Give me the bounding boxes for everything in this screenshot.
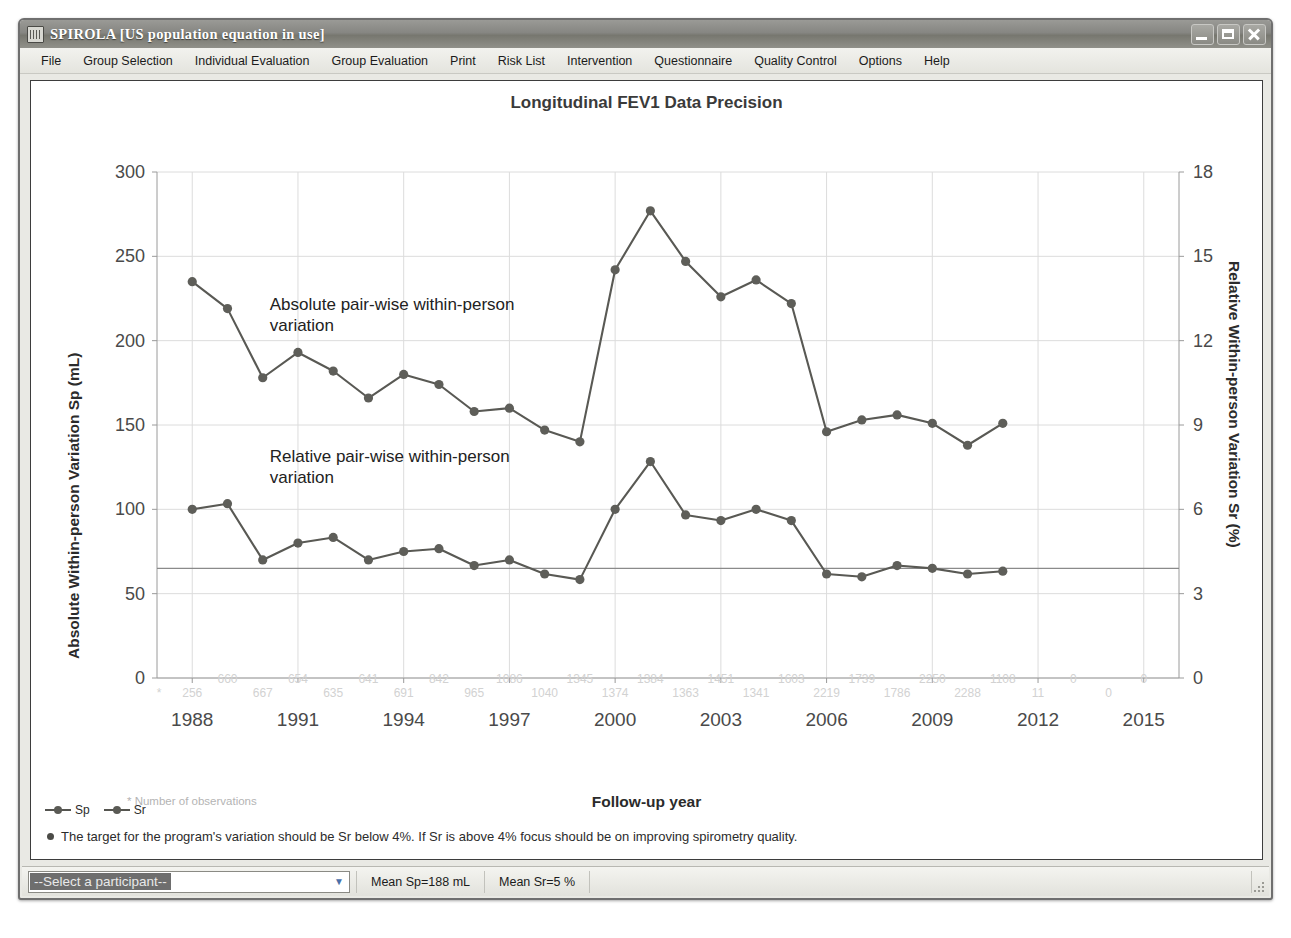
svg-text:9: 9	[1193, 415, 1203, 435]
target-note: The target for the program's variation s…	[47, 829, 797, 844]
menu-item-file[interactable]: File	[30, 51, 72, 71]
svg-text:667: 667	[253, 686, 273, 700]
legend-marker-sr-icon	[104, 805, 130, 815]
svg-text:0: 0	[1140, 672, 1147, 686]
menu-item-quality-control[interactable]: Quality Control	[743, 51, 848, 71]
app-icon	[27, 26, 44, 43]
svg-text:1994: 1994	[383, 709, 426, 730]
menu-item-group-selection[interactable]: Group Selection	[72, 51, 184, 71]
svg-text:1384: 1384	[637, 672, 664, 686]
y-axis-tick-labels-left: 050100150200250300	[115, 162, 145, 688]
target-note-text: The target for the program's variation s…	[61, 829, 797, 844]
legend-label-sr: Sr	[134, 803, 146, 817]
svg-text:641: 641	[358, 672, 378, 686]
title-bar[interactable]: SPIROLA [US population equation in use]	[20, 20, 1271, 48]
chart-annotations: Absolute pair-wise within-personvariatio…	[270, 295, 515, 487]
svg-text:2015: 2015	[1123, 709, 1165, 730]
svg-text:150: 150	[115, 415, 145, 435]
svg-text:1040: 1040	[531, 686, 558, 700]
svg-text:654: 654	[288, 672, 308, 686]
svg-text:0: 0	[1070, 672, 1077, 686]
svg-text:6: 6	[1193, 499, 1203, 519]
application-window: SPIROLA [US population equation in use] …	[18, 18, 1273, 900]
svg-text:18: 18	[1193, 162, 1213, 182]
svg-text:1108: 1108	[990, 672, 1016, 686]
axis-frame	[152, 172, 1184, 683]
svg-text:842: 842	[429, 672, 449, 686]
svg-text:2012: 2012	[1017, 709, 1059, 730]
resize-grip[interactable]	[1252, 880, 1266, 894]
menu-item-help[interactable]: Help	[913, 51, 961, 71]
menu-item-intervention[interactable]: Intervention	[556, 51, 643, 71]
svg-text:0: 0	[1105, 686, 1112, 700]
legend-entry-sp[interactable]: Sp	[45, 803, 90, 817]
svg-text:2006: 2006	[805, 709, 847, 730]
svg-text:1363: 1363	[672, 686, 699, 700]
svg-text:11: 11	[1032, 686, 1045, 700]
svg-text:1086: 1086	[496, 672, 523, 686]
svg-text:12: 12	[1193, 331, 1213, 351]
svg-text:Relative pair-wise within-pers: Relative pair-wise within-personvariatio…	[270, 447, 510, 487]
svg-text:2288: 2288	[954, 686, 981, 700]
svg-text:2009: 2009	[911, 709, 953, 730]
svg-text:965: 965	[464, 686, 484, 700]
svg-text:250: 250	[115, 246, 145, 266]
menu-item-print[interactable]: Print	[439, 51, 487, 71]
y-axis-tick-labels-right: 0369121518	[1193, 162, 1213, 688]
status-mean-sp: Mean Sp=188 mL	[356, 871, 485, 893]
svg-text:15: 15	[1193, 246, 1213, 266]
menu-item-options[interactable]: Options	[848, 51, 913, 71]
svg-text:1786: 1786	[884, 686, 911, 700]
menu-item-group-evaluation[interactable]: Group Evaluation	[320, 51, 439, 71]
svg-text:Absolute pair-wise within-pers: Absolute pair-wise within-personvariatio…	[270, 295, 515, 335]
window-title: SPIROLA [US population equation in use]	[50, 26, 325, 43]
chart-panel: Longitudinal FEV1 Data Precision Absolut…	[30, 80, 1263, 860]
observation-count-labels: 2566606676546356416918429651086104013451…	[157, 672, 1148, 700]
svg-text:1603: 1603	[778, 672, 805, 686]
svg-text:1345: 1345	[567, 672, 594, 686]
minimize-icon[interactable]	[1191, 24, 1214, 45]
svg-text:1991: 1991	[277, 709, 319, 730]
window-controls	[1191, 24, 1266, 45]
svg-text:2000: 2000	[594, 709, 636, 730]
menu-item-questionnaire[interactable]: Questionnaire	[643, 51, 743, 71]
legend-marker-sp-icon	[45, 805, 71, 815]
svg-text:1374: 1374	[602, 686, 629, 700]
status-bar: --Select a participant-- ▼ Mean Sp=188 m…	[22, 866, 1269, 896]
menu-bar: File Group Selection Individual Evaluati…	[20, 48, 1271, 74]
x-axis-tick-labels: 1988199119941997200020032006200920122015	[171, 709, 1165, 730]
status-filler	[590, 871, 1252, 893]
svg-text:2250: 2250	[919, 672, 946, 686]
legend-entry-sr[interactable]: Sr	[104, 803, 146, 817]
status-mean-sr: Mean Sr=5 %	[485, 871, 590, 893]
svg-text:635: 635	[323, 686, 343, 700]
participant-select[interactable]: --Select a participant-- ▼	[28, 871, 350, 893]
participant-select-value: --Select a participant--	[30, 873, 171, 890]
svg-text:2003: 2003	[700, 709, 742, 730]
svg-text:3: 3	[1193, 584, 1203, 604]
gridlines	[157, 172, 1179, 678]
svg-text:1739: 1739	[848, 672, 875, 686]
svg-text:*: *	[157, 686, 162, 700]
menu-item-risk-list[interactable]: Risk List	[487, 51, 556, 71]
svg-text:1341: 1341	[743, 686, 770, 700]
chart-legend: Sp Sr	[45, 803, 146, 817]
svg-text:256: 256	[182, 686, 202, 700]
close-icon[interactable]	[1243, 24, 1266, 45]
svg-text:691: 691	[394, 686, 414, 700]
chevron-down-icon[interactable]: ▼	[329, 872, 349, 892]
svg-text:100: 100	[115, 499, 145, 519]
svg-text:2219: 2219	[813, 686, 840, 700]
svg-text:660: 660	[217, 672, 237, 686]
svg-text:0: 0	[1193, 668, 1203, 688]
svg-text:200: 200	[115, 331, 145, 351]
svg-text:50: 50	[125, 584, 145, 604]
svg-text:1451: 1451	[708, 672, 735, 686]
svg-text:0: 0	[135, 668, 145, 688]
maximize-icon[interactable]	[1217, 24, 1240, 45]
svg-text:300: 300	[115, 162, 145, 182]
chart-plot: 050100150200250300 0369121518 1988199119…	[31, 81, 1264, 861]
legend-label-sp: Sp	[75, 803, 90, 817]
menu-item-individual-evaluation[interactable]: Individual Evaluation	[184, 51, 321, 71]
svg-text:1997: 1997	[488, 709, 530, 730]
